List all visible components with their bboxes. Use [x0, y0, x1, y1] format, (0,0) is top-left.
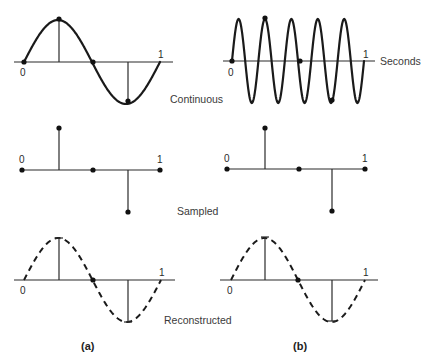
- panel-a-reconstructed: 0 1: [14, 238, 175, 322]
- sample-point: [296, 166, 301, 171]
- sample-point: [224, 166, 229, 171]
- panel-caption-b: (b): [293, 340, 307, 352]
- sample-point: [90, 59, 95, 64]
- tick-label-0: 0: [228, 67, 234, 78]
- sample-point: [297, 58, 302, 63]
- row-label-sampled: Sampled: [177, 205, 219, 217]
- sample-point: [125, 98, 130, 103]
- tick-label-0: 0: [227, 285, 233, 296]
- axis-unit-label: Seconds: [380, 55, 421, 67]
- tick-label-1: 1: [363, 49, 369, 60]
- sample-point: [295, 277, 300, 282]
- sample-point: [19, 167, 24, 172]
- sample-point: [329, 208, 334, 213]
- sampling-aliasing-diagram: 0 1 0 1 Seconds Continuous 0 1: [0, 0, 430, 363]
- sample-point: [125, 209, 130, 214]
- sample-point: [262, 125, 267, 130]
- panel-b-sampled: 0 1: [224, 125, 368, 213]
- panel-a-sampled: 0 1: [19, 125, 163, 214]
- panel-b-continuous: 0 1 Seconds: [223, 15, 421, 103]
- sample-point: [157, 167, 162, 172]
- sample-point: [229, 58, 234, 63]
- tick-label-1: 1: [159, 267, 165, 278]
- sample-point: [90, 277, 95, 282]
- tick-label-0: 0: [19, 154, 25, 165]
- tick-label-0: 0: [224, 153, 230, 164]
- tick-label-0: 0: [20, 285, 26, 296]
- tick-label-1: 1: [362, 153, 368, 164]
- panel-a-continuous: 0 1: [14, 16, 173, 104]
- sample-point: [90, 167, 95, 172]
- sample-point: [56, 16, 61, 21]
- sample-point: [21, 59, 26, 64]
- panel-b-reconstructed: 0 1: [220, 237, 378, 322]
- sample-point: [262, 15, 267, 20]
- sample-point: [56, 125, 61, 130]
- tick-label-0: 0: [20, 67, 26, 78]
- row-label-continuous: Continuous: [170, 93, 223, 105]
- tick-label-1: 1: [157, 154, 163, 165]
- tick-label-1: 1: [363, 267, 369, 278]
- sample-point: [362, 166, 367, 171]
- panel-caption-a: (a): [81, 340, 95, 352]
- row-label-reconstructed: Reconstructed: [164, 314, 232, 326]
- sample-point: [329, 97, 334, 102]
- tick-label-1: 1: [158, 49, 164, 60]
